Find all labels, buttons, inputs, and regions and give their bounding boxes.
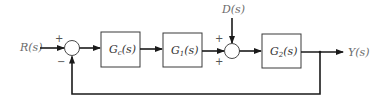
disturbance-label: D(s) [221,3,245,16]
sum2-top-plus-sign: + [215,33,223,44]
output-label: Y(s) [348,46,370,59]
block-gc-label: Gc(s) [109,43,136,57]
summing-junction-1 [65,41,80,56]
block-g1-label: G1(s) [171,44,199,58]
block-g2-label: G2(s) [270,45,298,59]
sum1-minus-sign: − [57,56,65,67]
sum2-bottom-plus-sign: + [215,56,223,67]
input-label: R(s) [19,41,43,54]
block-diagram: R(s) + − Gc(s) G1(s) D(s) + + G2(s) Y(s) [0,0,382,101]
sum1-plus-sign: + [55,33,63,44]
summing-junction-2 [225,44,240,59]
